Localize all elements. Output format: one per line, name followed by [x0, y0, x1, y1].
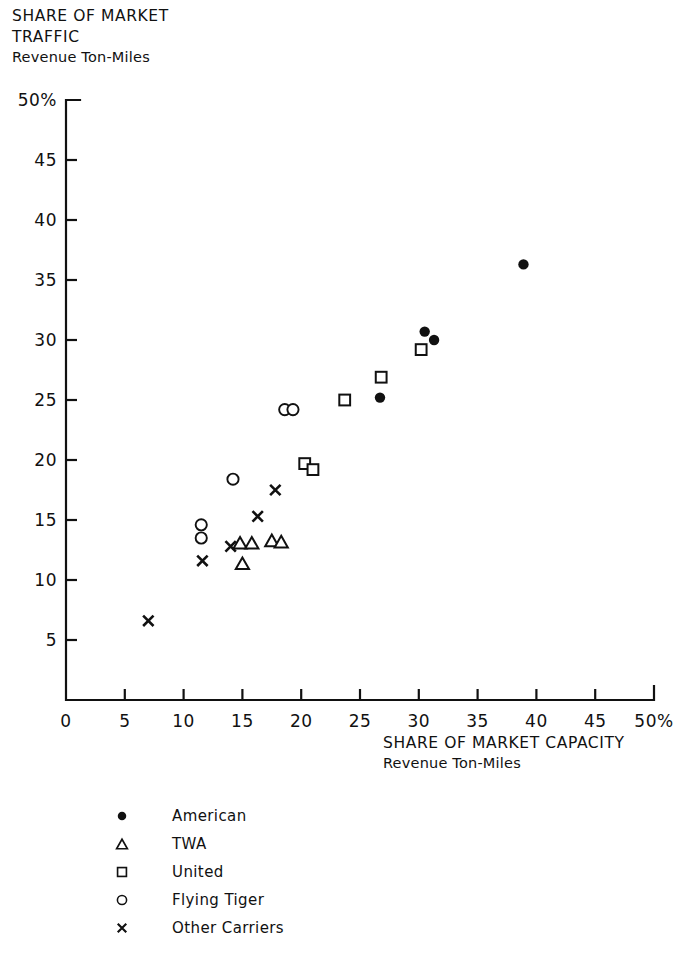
- data-point-cross: [270, 485, 280, 495]
- y-axis-tick-labels: 5101520253035404550%: [18, 90, 57, 650]
- legend-item-other-carriers[interactable]: Other Carriers: [104, 914, 284, 942]
- data-point-filled-circle: [518, 259, 528, 269]
- axis-lines: [66, 100, 654, 700]
- x-tick-label: 40: [525, 711, 548, 731]
- data-point-markers: [143, 259, 529, 626]
- x-tick-label: 10: [172, 711, 195, 731]
- data-point-cross: [252, 511, 262, 521]
- x-tick-label: 45: [584, 711, 607, 731]
- open-circle-icon: [104, 889, 140, 911]
- x-tick-label: 25: [349, 711, 372, 731]
- x-tick-label: 15: [231, 711, 254, 731]
- x-axis-caption: SHARE OF MARKET CAPACITY Revenue Ton-Mil…: [383, 733, 625, 773]
- y-tick-label: 25: [34, 390, 57, 410]
- x-axis-tick-labels: 05101520253035404550%: [60, 711, 673, 731]
- triangle-icon: [104, 833, 140, 855]
- cross-icon: [104, 917, 140, 939]
- x-tick-label: 0: [60, 711, 71, 731]
- data-point-triangle: [245, 537, 258, 549]
- x-tick-label: 35: [466, 711, 489, 731]
- filled-circle-icon: [104, 805, 140, 827]
- y-tick-label: 50%: [18, 90, 57, 110]
- y-tick-label: 15: [34, 510, 57, 530]
- legend-item-twa[interactable]: TWA: [104, 830, 284, 858]
- legend-label: TWA: [172, 835, 207, 853]
- y-tick-label: 20: [34, 450, 57, 470]
- y-tick-label: 5: [46, 630, 57, 650]
- y-axis-ticks: [66, 160, 77, 640]
- square-icon: [104, 861, 140, 883]
- x-tick-label: 5: [119, 711, 130, 731]
- legend-item-united[interactable]: United: [104, 858, 284, 886]
- x-axis-caption-line-1: SHARE OF MARKET CAPACITY: [383, 733, 625, 754]
- legend-label: Other Carriers: [172, 919, 284, 937]
- y-tick-label: 40: [34, 210, 57, 230]
- data-point-filled-circle: [419, 326, 429, 336]
- legend-item-flying-tiger[interactable]: Flying Tiger: [104, 886, 284, 914]
- data-point-open-circle: [196, 532, 207, 543]
- data-point-open-circle: [227, 474, 238, 485]
- x-axis-ticks: [125, 689, 595, 700]
- chart-legend: AmericanTWAUnitedFlying TigerOther Carri…: [104, 802, 284, 942]
- data-point-filled-circle: [429, 335, 439, 345]
- legend-label: United: [172, 863, 224, 881]
- data-point-square: [308, 464, 319, 475]
- data-point-open-circle: [196, 519, 207, 530]
- x-tick-label: 50%: [634, 711, 673, 731]
- x-tick-label: 20: [290, 711, 313, 731]
- legend-label: American: [172, 807, 247, 825]
- legend-item-american[interactable]: American: [104, 802, 284, 830]
- data-point-filled-circle: [375, 392, 385, 402]
- x-tick-label: 30: [407, 711, 430, 731]
- y-tick-label: 45: [34, 150, 57, 170]
- data-point-open-circle: [287, 404, 298, 415]
- data-point-triangle: [236, 557, 249, 569]
- data-point-square: [416, 344, 427, 355]
- y-tick-label: 10: [34, 570, 57, 590]
- data-point-square: [339, 395, 350, 406]
- data-point-cross: [143, 616, 153, 626]
- legend-label: Flying Tiger: [172, 891, 264, 909]
- data-point-square: [376, 372, 387, 383]
- x-axis-caption-line-2: Revenue Ton-Miles: [383, 754, 625, 774]
- y-tick-label: 35: [34, 270, 57, 290]
- y-tick-label: 30: [34, 330, 57, 350]
- data-point-cross: [197, 556, 207, 566]
